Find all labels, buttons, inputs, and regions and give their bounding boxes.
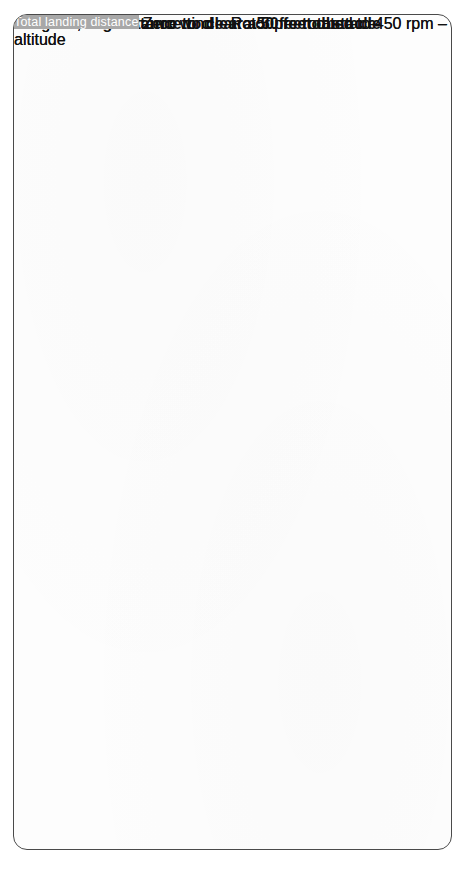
paper-grain bbox=[14, 15, 451, 849]
landing-y-axis-label-line2: altitude bbox=[14, 32, 78, 49]
landing-x-axis-label: Total landing distance bbox=[14, 15, 139, 29]
landing-x-axis-label-bar: Total landing distance bbox=[14, 15, 139, 29]
scanned-page: Total takeoff distance to clear a 50 fee… bbox=[0, 0, 466, 880]
page-sheet-border: Total takeoff distance to clear a 50 fee… bbox=[13, 14, 452, 850]
